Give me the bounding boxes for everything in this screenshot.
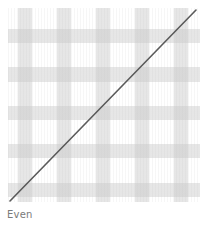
pattern-swatch[interactable] — [8, 8, 200, 202]
diagonal-slash-icon — [8, 8, 200, 202]
swatch-label: Even — [7, 209, 33, 220]
